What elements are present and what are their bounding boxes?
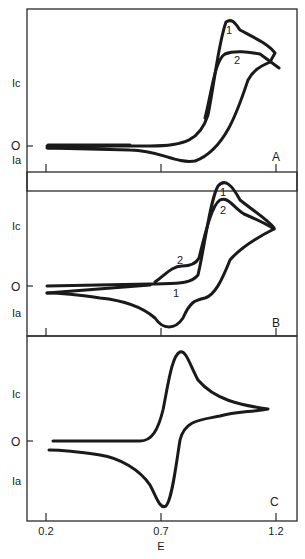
x-tick-label-1.2: 1.2 — [268, 525, 283, 537]
y-label-ia: Ia — [12, 307, 22, 319]
figure-frame — [27, 9, 297, 521]
x-axis: 0.2 0.7 1.2 E — [38, 525, 283, 552]
panel-a: Ic O Ia 1 2 A — [11, 21, 280, 166]
curve-label-2-shoulder: 2 — [177, 254, 183, 266]
y-label-ic: Ic — [12, 77, 21, 89]
x-ticks — [27, 146, 276, 521]
panel-c: Ic O Ia C — [11, 352, 279, 509]
cyclic-voltammogram-figure: Ic O Ia 1 2 A Ic O Ia 1 2 2 1 B Ic O Ia — [0, 0, 305, 559]
panel-b-curves — [47, 183, 274, 327]
curve-label-1: 1 — [226, 24, 232, 36]
y-label-zero: O — [11, 280, 20, 294]
curve-label-1-shoulder: 1 — [173, 287, 179, 299]
x-tick-label-0.7: 0.7 — [153, 525, 168, 537]
panel-label-a: A — [272, 150, 280, 164]
curve-label-2: 2 — [220, 204, 226, 216]
panel-b: Ic O Ia 1 2 2 1 B — [11, 183, 280, 330]
y-label-ia: Ia — [12, 154, 22, 166]
y-label-ic: Ic — [12, 388, 21, 400]
y-label-zero: O — [11, 435, 20, 449]
y-label-ic: Ic — [12, 220, 21, 232]
panel-a-curves — [47, 21, 279, 162]
panel-label-b: B — [272, 316, 280, 330]
y-label-zero: O — [11, 139, 20, 153]
y-label-ia: Ia — [12, 475, 22, 487]
panel-c-curve — [49, 352, 268, 507]
x-tick-label-0.2: 0.2 — [38, 525, 53, 537]
panel-label-c: C — [270, 495, 279, 509]
x-axis-title: E — [157, 540, 164, 552]
curve-label-1: 1 — [220, 186, 226, 198]
curve-label-2: 2 — [234, 54, 240, 66]
